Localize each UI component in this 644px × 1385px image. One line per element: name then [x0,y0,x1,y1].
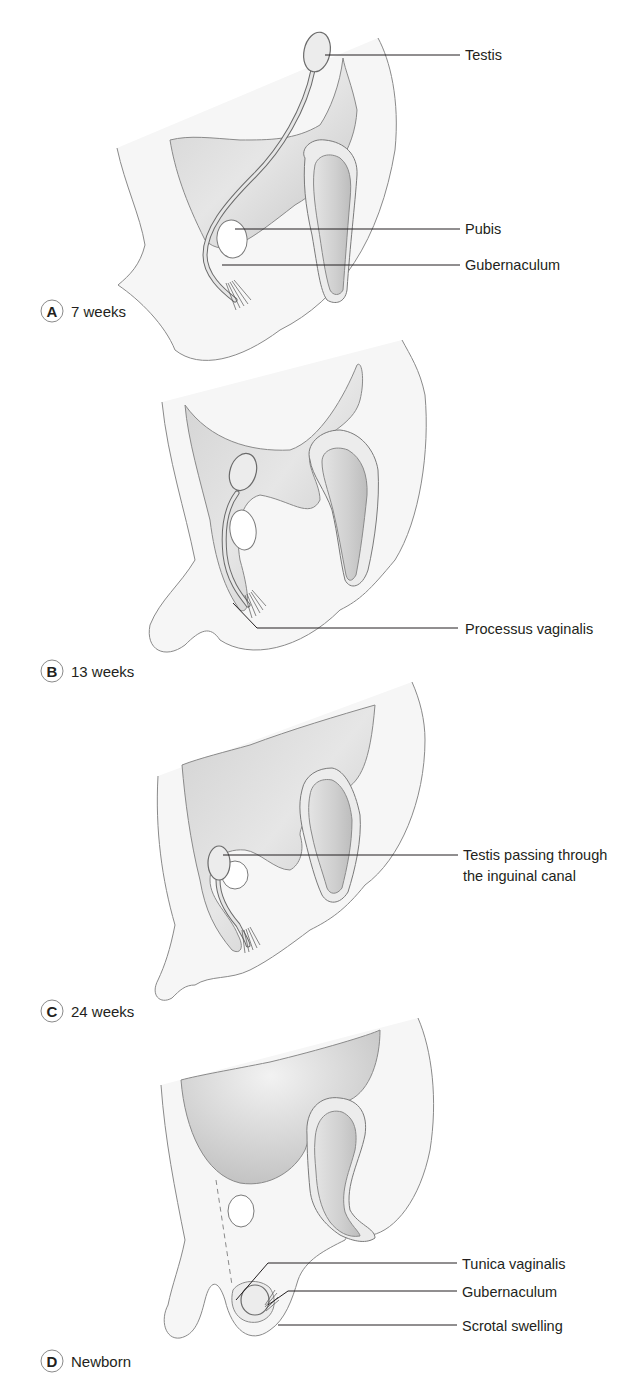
panel-letter: A [47,303,58,320]
panel-d: Tunica vaginalis Gubernaculum Scrotal sw… [41,1018,565,1372]
label-testis-inguinal-line2: the inguinal canal [463,868,576,884]
label-processus-vaginalis: Processus vaginalis [465,621,593,637]
label-gubernaculum: Gubernaculum [462,1284,557,1300]
label-pubis: Pubis [465,221,501,237]
stage-label: 13 weeks [71,663,134,680]
stage-label: 7 weeks [71,303,126,320]
panel-letter: C [47,1003,58,1020]
stage-label: Newborn [71,1353,131,1370]
label-gubernaculum: Gubernaculum [465,257,560,273]
label-scrotal-swelling: Scrotal swelling [462,1318,563,1334]
panel-letter: D [47,1353,58,1370]
stage-label: 24 weeks [71,1003,134,1020]
label-testis: Testis [465,47,502,63]
testis-descent-diagram: Testis Pubis Gubernaculum A 7 weeks Proc… [0,0,644,1385]
pubis [228,1195,254,1227]
testis [208,846,230,880]
panel-c: Testis passing through the inguinal cana… [41,682,607,1022]
panel-letter: B [47,663,58,680]
panel-a: Testis Pubis Gubernaculum A 7 weeks [41,30,560,361]
panel-b: Processus vaginalis B 13 weeks [41,340,593,682]
label-tunica-vaginalis: Tunica vaginalis [462,1256,565,1272]
leader-gubernaculum [268,1291,457,1305]
label-testis-inguinal-line1: Testis passing through [463,847,607,863]
